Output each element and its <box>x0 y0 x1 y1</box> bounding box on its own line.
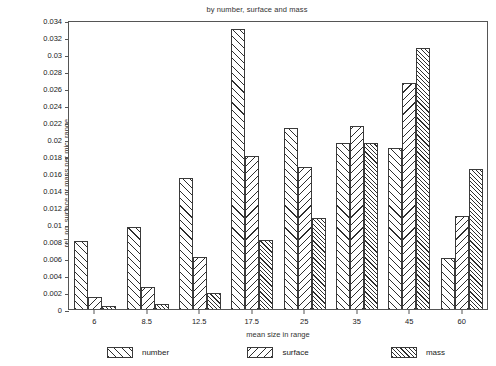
legend-swatch-mass <box>391 347 417 358</box>
y-tick-label: 0.008 <box>43 238 62 247</box>
x-tick-mark <box>356 310 357 314</box>
bar-mass <box>259 240 273 309</box>
legend-label-surface: surface <box>282 348 308 357</box>
bar-mass <box>155 304 169 309</box>
x-tick-label: 17.5 <box>226 317 279 326</box>
bar-groups <box>69 22 488 309</box>
legend-swatch-surface <box>247 347 273 358</box>
x-tick-mark <box>199 310 200 314</box>
y-tick-label: 0.022 <box>43 119 62 128</box>
x-tick-label: 35 <box>331 317 384 326</box>
x-tick-mark <box>461 310 462 314</box>
x-axis-title: mean size in range <box>68 330 488 339</box>
y-tick-label: 0.028 <box>43 68 62 77</box>
y-tick-label: 0.018 <box>43 153 62 162</box>
bar-mass <box>102 306 116 309</box>
bar-group <box>436 22 488 309</box>
bar-number <box>284 128 298 309</box>
x-axis-tick: 17.5 <box>226 310 279 332</box>
bar-mass <box>207 293 221 309</box>
y-tick-label: 0.002 <box>43 289 62 298</box>
bar-number <box>441 258 455 309</box>
x-tick-mark <box>94 310 95 314</box>
bar-number <box>388 148 402 310</box>
y-tick-label: 0.012 <box>43 204 62 213</box>
x-tick-label: 60 <box>436 317 489 326</box>
bar-surface <box>141 287 155 309</box>
bar-group <box>226 22 278 309</box>
x-axis-tick: 8.5 <box>121 310 174 332</box>
legend-swatch-number <box>107 347 133 358</box>
bar-number <box>74 241 88 309</box>
x-axis-ticks: 68.512.517.525354560 <box>68 310 488 332</box>
bar-number <box>231 29 245 309</box>
legend-entry-surface[interactable]: surface <box>208 347 348 358</box>
x-tick-label: 45 <box>383 317 436 326</box>
x-tick-mark <box>304 310 305 314</box>
x-axis-tick: 12.5 <box>173 310 226 332</box>
bar-group <box>174 22 226 309</box>
bar-number <box>336 143 350 309</box>
bar-group <box>121 22 173 309</box>
x-axis-tick: 45 <box>383 310 436 332</box>
y-tick-label: 0.032 <box>43 34 62 43</box>
x-tick-label: 8.5 <box>121 317 174 326</box>
y-tick-label: 0.024 <box>43 102 62 111</box>
y-tick-label: 0.034 <box>43 17 62 26</box>
y-tick-label: 0.014 <box>43 187 62 196</box>
bar-group <box>279 22 331 309</box>
bar-group <box>383 22 435 309</box>
legend-entry-mass[interactable]: mass <box>348 347 488 358</box>
bar-surface <box>298 167 312 309</box>
legend-entry-number[interactable]: number <box>68 347 208 358</box>
chart-legend: numbersurfacemass <box>68 343 488 361</box>
x-tick-mark <box>146 310 147 314</box>
bar-surface <box>402 83 416 309</box>
chart-title-text: by number, surface and mass <box>0 5 496 14</box>
x-tick-mark <box>409 310 410 314</box>
legend-label-mass: mass <box>426 348 445 357</box>
bar-surface <box>193 257 207 309</box>
x-tick-label: 25 <box>278 317 331 326</box>
x-tick-label: 6 <box>68 317 121 326</box>
bar-group <box>331 22 383 309</box>
chart-container: by number, surface and mass rel. no, sur… <box>0 0 496 366</box>
bar-mass <box>416 48 430 309</box>
bar-surface <box>455 216 469 310</box>
y-tick-label: 0.026 <box>43 85 62 94</box>
y-tick-label: 0.016 <box>43 170 62 179</box>
bar-mass <box>312 218 326 309</box>
x-tick-label: 12.5 <box>173 317 226 326</box>
bar-surface <box>88 297 102 309</box>
y-tick-label: 0.02 <box>47 136 62 145</box>
x-axis-tick: 6 <box>68 310 121 332</box>
x-axis-tick: 35 <box>331 310 384 332</box>
bar-number <box>179 178 193 309</box>
y-tick-label: 0.006 <box>43 255 62 264</box>
y-tick-label: 0 <box>58 306 62 315</box>
x-axis-tick: 60 <box>436 310 489 332</box>
bar-surface <box>350 126 364 309</box>
plot-area: 0.0340.0320.030.0280.0260.0240.0220.020.… <box>68 21 488 310</box>
y-tick-label: 0.01 <box>47 221 62 230</box>
bar-group <box>69 22 121 309</box>
y-tick-label: 0.03 <box>47 51 62 60</box>
x-tick-mark <box>251 310 252 314</box>
bar-number <box>127 227 141 309</box>
y-tick-label: 0.004 <box>43 272 62 281</box>
bar-mass <box>364 143 378 309</box>
bar-surface <box>245 156 259 309</box>
legend-label-number: number <box>142 348 169 357</box>
chart-title: by number, surface and mass <box>0 5 496 14</box>
x-axis-tick: 25 <box>278 310 331 332</box>
bar-mass <box>469 169 483 309</box>
